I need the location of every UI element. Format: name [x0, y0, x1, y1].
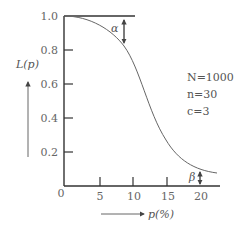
x-ticks	[100, 177, 167, 186]
y-tick-label: 0.2	[41, 146, 59, 159]
y-tick-label: 0.6	[41, 78, 59, 91]
x-tick-label: 5	[97, 190, 104, 203]
param-c: c=3	[187, 105, 209, 118]
x-tick-label: 20	[194, 190, 208, 203]
y-tick-label: 1.0	[41, 10, 59, 23]
x-tick-label: 15	[161, 190, 175, 203]
oc-curve-chart: 1.0 0.8 0.6 0.4 0.2 0 5 10 15 20 α β L(p…	[0, 0, 237, 233]
beta-label: β	[188, 171, 195, 184]
y-tick-label: 0.4	[41, 112, 59, 125]
x-axis-label: p(%)	[148, 208, 174, 221]
y-axis-label: L(p)	[15, 58, 39, 71]
y-ticks	[64, 50, 73, 152]
x-tick-label: 10	[127, 190, 141, 203]
param-n: n=30	[187, 88, 217, 101]
param-N: N=1000	[187, 71, 234, 84]
y-tick-label: 0.8	[41, 44, 59, 57]
alpha-label: α	[111, 22, 119, 35]
origin-label: 0	[58, 187, 65, 200]
